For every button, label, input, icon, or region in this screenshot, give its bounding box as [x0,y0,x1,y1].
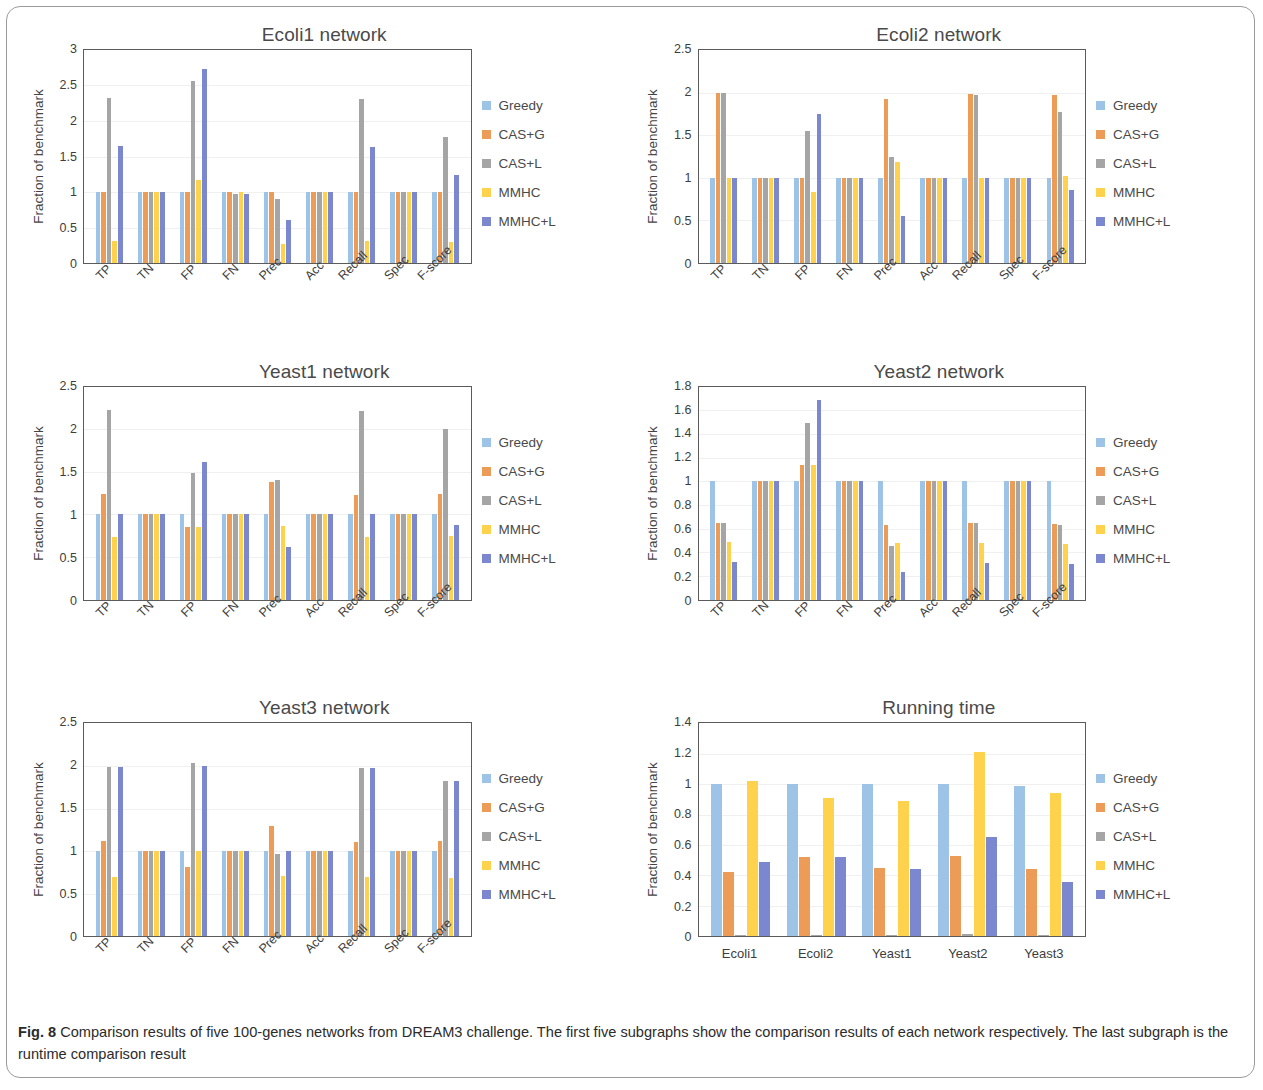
x-tick-Yeast3: Yeast3 [1006,940,1082,1000]
legend-item-mmhc-l[interactable]: MMHC+L [1096,880,1228,909]
bar-greedy-Acc [306,192,311,263]
legend-yeast2: GreedyCAS+GCAS+LMMHCMMHC+L [1096,428,1228,573]
legend-item-mmhc[interactable]: MMHC [482,515,614,544]
bar-group-FP [787,50,829,263]
bar-cas-g-FN [842,178,847,263]
legend-item-mmhc-l[interactable]: MMHC+L [482,880,614,909]
y-axis-label-text: Fraction of benchmark [31,89,46,223]
x-tick-label: FN [834,598,856,620]
legend-item-cas-g[interactable]: CAS+G [1096,120,1228,149]
legend-swatch-icon [1096,890,1105,899]
legend-item-cas-l[interactable]: CAS+L [1096,822,1228,851]
bar-mmhc-TP [112,537,117,600]
legend-item-greedy[interactable]: Greedy [1096,428,1228,457]
x-tick-FP: FP [786,267,828,327]
legend-item-mmhc-l[interactable]: MMHC+L [482,544,614,573]
legend-swatch-icon [1096,101,1105,110]
bar-group-Spec [382,723,424,936]
bar-group-Recall [340,50,382,263]
legend-swatch-icon [1096,217,1105,226]
x-tick-label: TN [135,598,157,620]
x-tick-label: TN [750,261,772,283]
legend-item-mmhc[interactable]: MMHC [482,851,614,880]
x-tick-TN: TN [744,267,786,327]
plot-inner [84,387,471,600]
legend-item-cas-l[interactable]: CAS+L [482,822,614,851]
legend-item-mmhc[interactable]: MMHC [1096,851,1228,880]
bar-greedy-Spec [1004,178,1009,263]
bar-greedy-FN [836,178,841,263]
y-axis-label-text: Fraction of benchmark [645,426,660,560]
bar-mmhc-l-TP [118,146,123,263]
legend-item-mmhc[interactable]: MMHC [482,178,614,207]
x-tick-FP: FP [172,267,214,327]
bar-cas-l-Recall [359,768,364,937]
legend-item-cas-l[interactable]: CAS+L [1096,486,1228,515]
bar-mmhc-FN [239,851,244,936]
legend-item-mmhc[interactable]: MMHC [1096,178,1228,207]
subplot-yeast1: Yeast1 networkFraction of benchmark00.51… [17,352,632,689]
bar-greedy-Recall [962,481,967,599]
bar-cas-l-Acc [317,514,322,599]
y-tick-label: 0.6 [674,838,691,852]
legend-item-cas-g[interactable]: CAS+G [482,793,614,822]
bar-group-Acc [913,387,955,600]
x-tick-FP: FP [786,604,828,664]
bar-cas-g-FP [800,178,805,263]
bar-cas-l-Prec [889,546,894,599]
legend-item-greedy[interactable]: Greedy [482,91,614,120]
bar-group-F-score [1039,387,1081,600]
bar-group-TN [130,723,172,936]
x-tick-F-score: F-score [425,604,467,664]
x-tick-Ecoli2: Ecoli2 [778,940,854,1000]
bar-mmhc-l-FP [817,114,822,263]
legend-item-mmhc[interactable]: MMHC [1096,515,1228,544]
bar-cas-g-TN [758,178,763,263]
legend-item-cas-l[interactable]: CAS+L [1096,149,1228,178]
bar-group-Acc [298,50,340,263]
legend-item-mmhc-l[interactable]: MMHC+L [482,207,614,236]
x-tick-label: FP [792,598,813,619]
bar-group-Yeast2 [930,723,1006,936]
legend-swatch-icon [482,496,491,505]
bar-group-Ecoli1 [703,723,779,936]
legend-item-cas-l[interactable]: CAS+L [482,486,614,515]
legend-item-mmhc-l[interactable]: MMHC+L [1096,544,1228,573]
y-ticks-yeast3: 00.511.522.5 [45,722,81,937]
legend-yeast3: GreedyCAS+GCAS+LMMHCMMHC+L [482,764,614,909]
legend-item-mmhc-l[interactable]: MMHC+L [1096,207,1228,236]
legend-item-cas-g[interactable]: CAS+G [1096,793,1228,822]
bar-group-FN [214,50,256,263]
y-tick-label: 0.4 [674,546,691,560]
legend-swatch-icon [482,832,491,841]
bar-cas-l-Acc [932,178,937,263]
legend-item-cas-l[interactable]: CAS+L [482,149,614,178]
bar-cas-l-Acc [317,192,322,263]
legend-item-cas-g[interactable]: CAS+G [1096,457,1228,486]
y-tick-label: 1 [70,508,77,522]
bar-cas-l-Prec [275,480,280,600]
legend-item-cas-g[interactable]: CAS+G [482,120,614,149]
legend-item-cas-g[interactable]: CAS+G [482,457,614,486]
bar-mmhc-Prec [281,526,286,600]
bar-mmhc-l-Recall [370,147,375,263]
subplot-ecoli2: Ecoli2 networkFraction of benchmark00.51… [632,15,1247,352]
legend-item-greedy[interactable]: Greedy [1096,764,1228,793]
legend-item-greedy[interactable]: Greedy [482,428,614,457]
legend-label: CAS+L [499,493,542,508]
y-tick-label: 1 [70,844,77,858]
bar-mmhc-Acc [323,851,328,936]
y-tick-label: 1 [70,185,77,199]
legend-item-greedy[interactable]: Greedy [482,764,614,793]
bar-greedy-TP [710,178,715,263]
bar-cas-g-TP [716,93,721,263]
x-tick-Acc: Acc [913,604,955,664]
x-tick-label: Ecoli1 [722,946,757,961]
bar-mmhc-l-Yeast1 [910,869,921,936]
bar-cas-g-TN [143,192,148,263]
x-tick-FP: FP [172,604,214,664]
legend-item-greedy[interactable]: Greedy [1096,91,1228,120]
legend-swatch-icon [1096,803,1105,812]
x-tick-label: FP [178,598,199,619]
bar-mmhc-l-Prec [286,851,291,936]
